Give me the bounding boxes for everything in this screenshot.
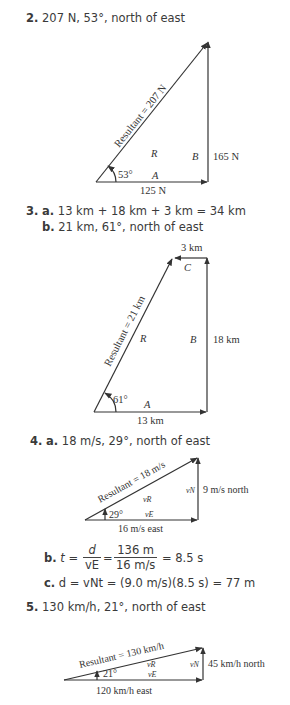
figure-4-triangle	[85, 458, 198, 520]
label-13km: 13 km	[137, 415, 164, 426]
label-165N: 165 N	[213, 151, 239, 162]
label-3km: 3 km	[181, 242, 202, 253]
resultant-label: Resultant = 207 N	[112, 82, 169, 149]
label-vE: vE	[148, 670, 157, 679]
label-B: B	[190, 334, 197, 345]
vector-vR	[85, 458, 197, 520]
label-A: A	[151, 170, 159, 181]
label-9ms-north: 9 m/s north	[203, 484, 249, 495]
angle-label: 29°	[109, 509, 123, 520]
label-45kmh-north: 45 km/h north	[208, 658, 265, 669]
label-vN: vN	[190, 660, 200, 669]
label-A: A	[143, 399, 151, 410]
label-16ms-east: 16 m/s east	[118, 523, 163, 534]
label-vR: vR	[147, 660, 156, 669]
resultant-label: Resultant = 21 km	[102, 294, 147, 368]
label-vR: vR	[143, 495, 152, 504]
angle-arc	[108, 166, 116, 182]
vector-diagrams: Resultant = 207 N R B 165 N 53° A 125 N …	[0, 0, 290, 705]
label-B: B	[192, 151, 199, 162]
label-120kmh-east: 120 km/h east	[96, 685, 152, 696]
resultant-label: Resultant = 18 m/s	[96, 459, 167, 505]
vector-R	[96, 43, 207, 182]
label-R: R	[139, 333, 147, 344]
label-vN: vN	[186, 486, 196, 495]
vector-R	[94, 259, 172, 412]
angle-label: 53°	[118, 169, 133, 180]
label-C: C	[184, 262, 192, 273]
angle-label: 21°	[103, 668, 117, 679]
angle-label: 61°	[113, 394, 128, 405]
label-vE: vE	[145, 510, 154, 519]
label-18km: 18 km	[213, 334, 240, 345]
label-125N: 125 N	[140, 185, 166, 196]
label-R: R	[150, 148, 158, 159]
